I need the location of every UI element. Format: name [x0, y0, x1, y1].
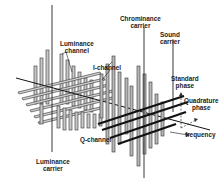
label-line: I-channel — [93, 64, 121, 71]
label-line: Quadrature — [184, 97, 218, 104]
label-line: carrier — [160, 38, 180, 45]
label-luminance-channel: Luminance channel — [60, 40, 94, 54]
label-luminance-carrier: Luminance carrier — [36, 158, 70, 172]
label-frequency: frequency — [185, 131, 216, 138]
label-line: phase — [171, 82, 199, 89]
chrominance-bars — [100, 56, 164, 166]
label-line: carrier — [36, 165, 70, 172]
label-line: Standard — [171, 75, 199, 82]
label-line: Chrominance — [120, 15, 161, 22]
label-standard-phase: Standard phase — [171, 75, 199, 89]
label-i-channel: I-channel — [93, 64, 121, 71]
label-line: Luminance — [60, 40, 94, 47]
label-line: Luminance — [36, 158, 70, 165]
label-q-channel: Q-channel — [80, 136, 111, 143]
label-line: Sound — [160, 31, 180, 38]
quadrature-phase-axis — [181, 120, 196, 128]
label-line: channel — [60, 47, 94, 54]
spectrum-diagram — [0, 0, 224, 185]
label-line: frequency — [185, 131, 216, 138]
label-sound-carrier: Sound carrier — [160, 31, 180, 45]
quadrature-phase-arrow — [194, 118, 198, 122]
standard-phase-arrow — [179, 92, 183, 96]
label-line: phase — [184, 104, 218, 111]
label-line: Q-channel — [80, 136, 111, 143]
label-chrominance-carrier: Chrominance carrier — [120, 15, 161, 29]
label-quadrature-phase: Quadrature phase — [184, 97, 218, 111]
label-line: carrier — [120, 22, 161, 29]
